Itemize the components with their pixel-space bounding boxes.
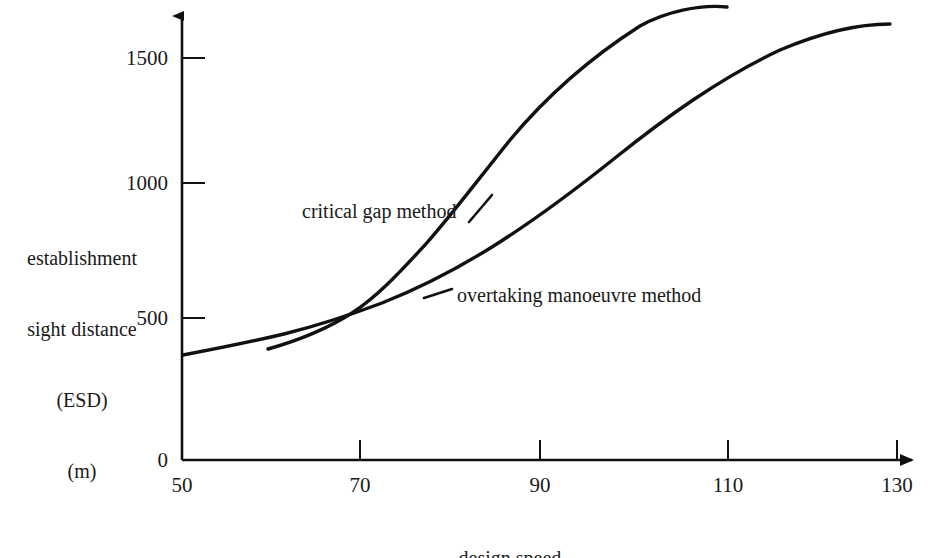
leader-line-critical-gap (469, 195, 492, 222)
series-label-overtaking: overtaking manoeuvre method (457, 284, 701, 308)
leader-line-overtaking (424, 289, 452, 298)
x-tick-label-90: 90 (510, 473, 570, 498)
x-tick-label-110: 110 (698, 473, 758, 498)
y-axis-title-line-2: sight distance (2, 318, 162, 342)
x-axis-title: design speed (km/h) (405, 500, 615, 558)
y-tick-label-1000: 1000 (84, 171, 168, 196)
y-axis-title-line-1: establishment (2, 247, 162, 271)
y-tick-label-1500: 1500 (84, 46, 168, 71)
x-axis-title-line-1: design speed (405, 547, 615, 558)
y-axis-ticks (182, 58, 205, 318)
y-axis-title: establishment sight distance (ESD) (m) (2, 200, 162, 530)
series-label-critical-gap: critical gap method (302, 200, 456, 224)
y-axis-title-line-4: (m) (2, 460, 162, 484)
x-tick-label-70: 70 (330, 473, 390, 498)
chart-figure: 1500 1000 500 0 50 70 90 110 130 establi… (0, 0, 929, 558)
x-tick-label-130: 130 (867, 473, 927, 498)
x-axis-ticks (360, 440, 897, 460)
y-axis-title-line-3: (ESD) (2, 389, 162, 413)
